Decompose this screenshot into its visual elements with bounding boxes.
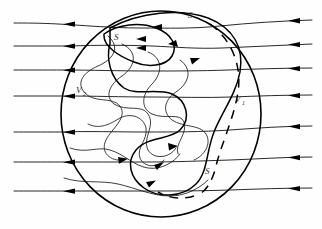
surface-label-top: S <box>188 10 193 20</box>
surface-label-top-text: S <box>188 10 193 20</box>
surface-label-top-left-text: S <box>114 32 119 42</box>
volume-label-left-subscript: 2 <box>83 91 86 97</box>
field-line-diagram: S S S V 2 V 1 <box>0 0 322 229</box>
surface-label-bottom-text: S <box>205 166 210 176</box>
surface-label-top-left: S <box>114 32 119 42</box>
surface-label-bottom: S <box>205 166 210 176</box>
volume-label-right-subscript: 1 <box>242 100 245 106</box>
figure-root: S S S V 2 V 1 <box>0 0 322 229</box>
